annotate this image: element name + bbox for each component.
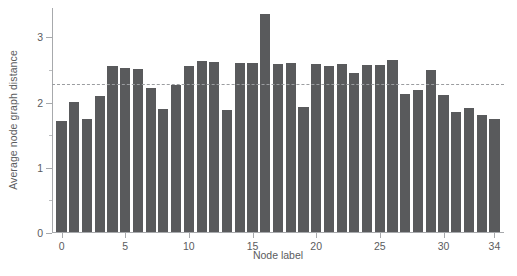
y-tick-mark [46, 103, 52, 104]
y-tick-mark [46, 233, 52, 234]
bar-node-9 [171, 85, 181, 232]
bar-node-22 [337, 64, 347, 232]
x-tick-mark [316, 233, 317, 238]
x-tick-mark [125, 233, 126, 238]
x-tick-mark [62, 233, 63, 238]
bar-node-12 [209, 62, 219, 232]
bar-node-25 [375, 65, 385, 232]
x-axis-line [52, 232, 504, 233]
y-tick-mark [46, 168, 52, 169]
x-tick-mark [494, 233, 495, 238]
bar-node-11 [197, 61, 207, 232]
mean-reference-line [52, 84, 504, 85]
bar-node-13 [222, 110, 232, 232]
y-tick-label: 1 [37, 162, 43, 174]
y-tick-mark [46, 37, 52, 38]
x-axis-label: Node label [52, 249, 504, 261]
y-axis-label: Average node graph distance [2, 0, 24, 240]
bar-node-2 [82, 119, 92, 232]
bar-node-17 [273, 64, 283, 232]
y-tick-label: 3 [37, 31, 43, 43]
bar-node-15 [247, 63, 257, 232]
bar-node-33 [477, 115, 487, 232]
x-tick-mark [380, 233, 381, 238]
bar-node-32 [464, 108, 474, 232]
bar-node-23 [349, 73, 359, 232]
bar-node-19 [298, 107, 308, 232]
bar-node-10 [184, 66, 194, 232]
bar-node-14 [235, 63, 245, 232]
bar-node-3 [95, 96, 105, 232]
figure-caption [52, 269, 504, 276]
y-tick-minor [49, 200, 53, 201]
plot-area: 0123 05101520253034 [52, 8, 504, 233]
y-tick-label: 0 [37, 227, 43, 239]
bar-node-8 [158, 109, 168, 232]
bar-node-30 [438, 95, 448, 232]
bar-node-28 [413, 90, 423, 232]
bar-node-4 [107, 66, 117, 232]
bar-node-27 [400, 94, 410, 232]
bar-node-5 [120, 68, 130, 232]
bar-node-0 [56, 121, 66, 232]
bar-node-31 [451, 112, 461, 232]
bar-node-16 [260, 14, 270, 232]
bar-node-21 [324, 66, 334, 232]
bar-node-24 [362, 65, 372, 232]
y-axis-line [52, 8, 53, 233]
bar-node-6 [133, 69, 143, 232]
bar-node-34 [489, 119, 499, 232]
x-tick-mark [444, 233, 445, 238]
y-tick-label: 2 [37, 97, 43, 109]
y-tick-minor [49, 70, 53, 71]
y-tick-minor [49, 135, 53, 136]
bar-node-7 [146, 88, 156, 232]
bar-node-1 [69, 102, 79, 232]
bar-node-18 [286, 63, 296, 232]
x-tick-mark [189, 233, 190, 238]
chart-figure: Average node graph distance 0123 0510152… [0, 0, 517, 276]
bar-node-29 [426, 70, 436, 232]
x-tick-mark [253, 233, 254, 238]
bar-node-26 [387, 60, 397, 232]
bar-node-20 [311, 64, 321, 232]
